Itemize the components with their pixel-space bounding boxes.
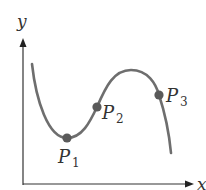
graph-diagram: y x P 1 P 2 P 3	[0, 0, 206, 190]
point-p3-label: P 3	[165, 85, 188, 109]
point-p3-marker	[154, 90, 163, 99]
x-axis-label: x	[197, 174, 206, 190]
point-p2-marker	[92, 102, 101, 111]
svg-text:2: 2	[116, 112, 124, 126]
point-p1-marker	[62, 133, 71, 142]
svg-text:P: P	[165, 85, 179, 106]
point-p2-label: P 2	[101, 102, 124, 126]
svg-text:1: 1	[72, 156, 80, 170]
svg-text:P: P	[57, 146, 71, 167]
x-axis-arrow-icon	[185, 181, 194, 188]
svg-text:3: 3	[180, 95, 188, 109]
point-p1-label: P 1	[57, 146, 80, 170]
svg-text:P: P	[101, 102, 115, 123]
y-axis-arrow-icon	[20, 38, 27, 47]
y-axis-label: y	[16, 11, 27, 31]
